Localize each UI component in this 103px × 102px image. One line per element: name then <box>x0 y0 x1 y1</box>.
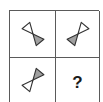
hourglass-icon <box>18 19 48 49</box>
cell-bottom-left <box>10 58 56 102</box>
cell-top-left <box>10 11 56 58</box>
hourglass-icon <box>63 19 93 49</box>
cell-top-right <box>56 11 100 58</box>
puzzle-grid: ? <box>9 10 99 102</box>
hourglass-icon <box>18 65 48 95</box>
question-mark: ? <box>72 74 82 91</box>
cell-bottom-right[interactable]: ? <box>56 58 100 102</box>
